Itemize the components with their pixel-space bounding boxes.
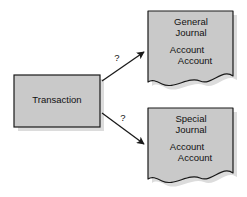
special-journal-entry-2: Account [154,152,236,163]
transaction-label: Transaction [14,94,100,105]
special-journal-title-line2: Journal [150,124,232,135]
special-journal-title-line1: Special [150,113,232,124]
general-journal-title-line2: Journal [150,27,232,38]
connector-label-general-journal: ? [110,52,124,63]
special-journal-entry-1: Account [146,141,228,152]
connector-label-special-journal: ? [116,112,130,123]
general-journal-title-line1: General [150,16,232,27]
general-journal-entry-1: Account [146,44,228,55]
diagram-canvas: Transaction General Journal Account Acco… [0,0,247,197]
general-journal-entry-2: Account [154,55,236,66]
